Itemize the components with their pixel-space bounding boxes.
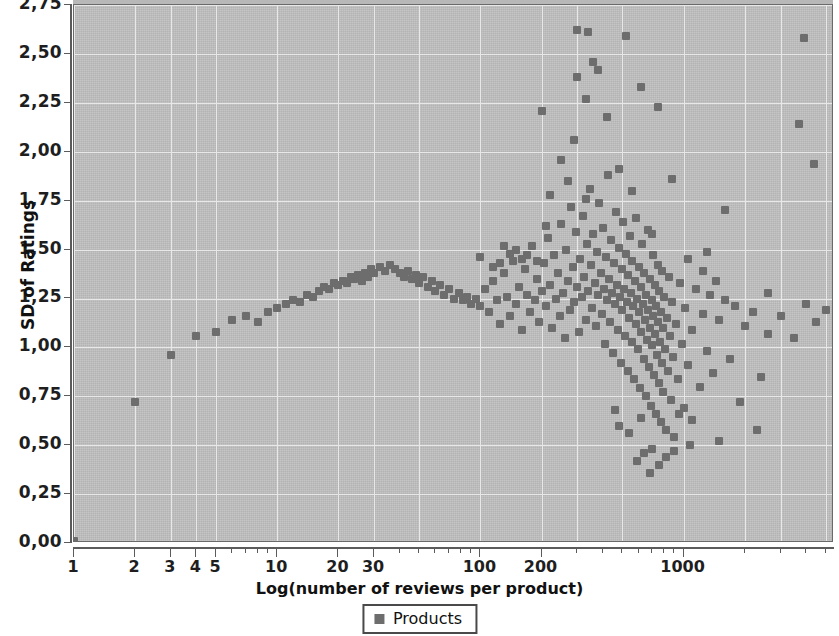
data-point [617,359,625,367]
data-point [655,461,663,469]
data-point [640,355,648,363]
data-point [655,379,663,387]
data-point [506,312,514,320]
x-tick-mark [73,549,74,557]
data-point [546,191,554,199]
data-point [608,289,616,297]
data-point [587,261,595,269]
data-point [664,367,672,375]
y-tick-label: 0,25 [4,482,62,502]
data-point [131,398,139,406]
data-point [648,230,656,238]
data-point [647,402,655,410]
data-point [506,250,514,258]
y-tick-mark [64,200,71,201]
data-point [542,302,550,310]
data-point [822,306,830,314]
gridline-vertical [277,5,278,541]
gridline-vertical [577,5,578,541]
data-point [535,318,543,326]
data-point [599,224,607,232]
gridline-vertical [745,5,746,541]
y-tick-label: 2,25 [4,91,62,111]
x-tick-mark [215,549,216,557]
plot-area [73,4,833,542]
x-tick-label: 200 [524,557,557,576]
data-point [703,347,711,355]
data-point [436,281,444,289]
data-point [273,304,281,312]
data-point [607,236,615,244]
data-point [523,291,531,299]
x-tick-label: 10 [265,557,287,576]
data-point [626,232,634,240]
data-point [512,300,520,308]
data-point [637,283,645,291]
y-tick-label: 0,50 [4,433,62,453]
data-point [658,359,666,367]
data-point [564,177,572,185]
data-point [481,285,489,293]
data-point [668,175,676,183]
gridline-horizontal [74,250,832,251]
y-tick-label: 2,00 [4,140,62,160]
data-point [635,308,643,316]
data-point [598,310,606,318]
x-tick-label: 100 [463,557,496,576]
data-point [800,34,808,42]
data-point [632,214,640,222]
data-point [572,228,580,236]
data-point [575,328,583,336]
data-point [622,250,630,258]
x-tick-mark [683,549,684,557]
data-point [678,340,686,348]
data-point [764,289,772,297]
data-point [526,308,534,316]
data-point [496,320,504,328]
data-point [634,345,642,353]
data-point [712,277,720,285]
data-point [212,328,220,336]
x-tick-mark [448,549,449,553]
gridline-horizontal [74,445,832,446]
data-point [597,269,605,277]
data-point [542,222,550,230]
x-tick-mark [276,549,277,557]
data-point [601,340,609,348]
data-point [753,426,761,434]
data-point [736,398,744,406]
data-point [667,396,675,404]
data-point [684,361,692,369]
gridline-vertical [135,5,136,541]
data-point [604,171,612,179]
data-point [167,351,175,359]
data-point [670,447,678,455]
data-point [640,449,648,457]
data-point [654,103,662,111]
data-point [404,267,412,275]
data-point [665,273,673,281]
data-point [566,306,574,314]
y-tick-label: 2,50 [4,42,62,62]
data-point [648,341,656,349]
data-point [192,332,200,340]
gridline-vertical [338,5,339,541]
data-point [476,253,484,261]
x-tick-mark [825,549,826,553]
data-point [749,308,757,316]
x-tick-mark [663,549,664,553]
data-point [603,113,611,121]
y-tick-mark [64,493,71,494]
data-point [726,355,734,363]
data-point [637,328,645,336]
x-tick-mark [337,549,338,557]
data-point [628,338,636,346]
data-point [641,316,649,324]
data-point [651,330,659,338]
data-point [684,255,692,263]
data-point [637,83,645,91]
y-tick-mark [64,4,71,5]
gridline-vertical [542,5,543,541]
data-point [628,187,636,195]
data-point [721,206,729,214]
